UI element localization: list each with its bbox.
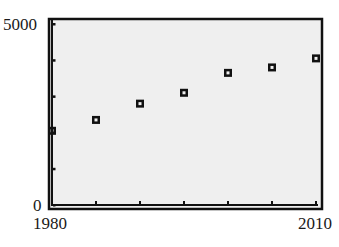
y-tick	[53, 23, 56, 26]
data-point-marker-hole	[183, 91, 186, 94]
y-tick	[53, 59, 56, 62]
y-axis-max-label: 5000	[3, 16, 37, 33]
y-tick	[53, 168, 56, 171]
y-tick	[53, 132, 56, 135]
y-axis-min-label: 0	[33, 197, 42, 214]
scatter-chart: 5000 0 1980 2010	[0, 0, 339, 247]
plot-area	[0, 0, 339, 247]
data-point-marker-hole	[95, 118, 98, 121]
data-point-marker-hole	[315, 57, 318, 60]
y-tick	[53, 204, 56, 207]
data-point-marker-hole	[139, 102, 142, 105]
data-point-marker-hole	[227, 71, 230, 74]
x-axis-min-label: 1980	[33, 215, 67, 232]
plot-background	[48, 18, 323, 210]
y-tick	[53, 95, 56, 98]
data-point-marker-hole	[271, 66, 274, 69]
x-axis-max-label: 2010	[298, 215, 332, 232]
